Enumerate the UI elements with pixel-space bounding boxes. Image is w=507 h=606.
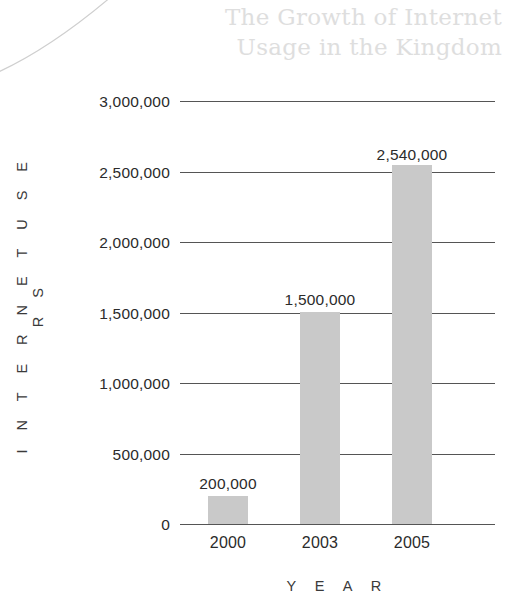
chart-title: The Growth of Internet Usage in the King…: [180, 2, 502, 62]
y-tick-label: 2,000,000: [20, 234, 170, 252]
bar-value-label-2000: 200,000: [158, 475, 298, 493]
bar-2005: [392, 165, 432, 524]
x-tick-label-2005: 2005: [352, 534, 472, 552]
gridline: [180, 101, 495, 102]
bar-2000: [208, 496, 248, 524]
y-axis-tick-labels: 3,000,000 2,500,000 2,000,000 1,500,000 …: [18, 101, 170, 525]
y-tick-label: 2,500,000: [20, 164, 170, 182]
bar-chart: The Growth of Internet Usage in the King…: [0, 0, 507, 606]
plot-area: [180, 101, 495, 525]
y-tick-label: 0: [20, 516, 170, 534]
bar-value-label-2005: 2,540,000: [342, 146, 482, 164]
decorative-arc-icon: [0, 0, 150, 80]
bar-2003: [300, 312, 340, 524]
y-tick-label: 3,000,000: [20, 93, 170, 111]
y-tick-label: 1,000,000: [20, 375, 170, 393]
y-tick-label: 500,000: [20, 446, 170, 464]
gridline: [180, 242, 495, 243]
y-tick-label: 1,500,000: [20, 305, 170, 323]
x-axis-title: Y E A R: [180, 578, 495, 594]
x-axis-baseline: [180, 524, 495, 525]
gridline: [180, 172, 495, 173]
bar-value-label-2003: 1,500,000: [250, 291, 390, 309]
